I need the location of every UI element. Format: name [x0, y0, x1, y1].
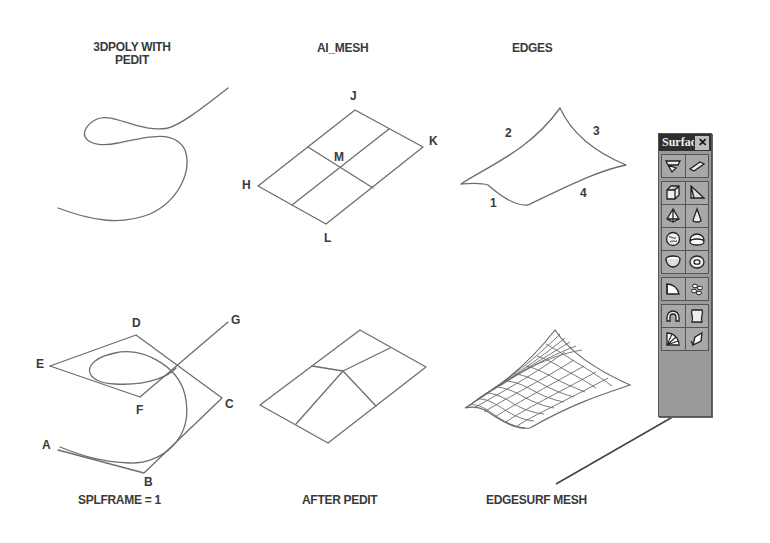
close-icon[interactable]: ✕ — [694, 135, 710, 151]
ruled-surface-button[interactable] — [686, 305, 709, 328]
revolved-surface-button[interactable] — [662, 278, 686, 300]
toolbar-title: Surfac — [662, 135, 696, 149]
edge-label-3: 3 — [593, 124, 600, 138]
edges-outline — [461, 108, 626, 205]
ai-mesh-title: AI_MESH — [317, 41, 368, 55]
toolbar-group-1 — [661, 154, 709, 178]
sphere-button[interactable] — [662, 228, 686, 251]
edgesurf-pointer-line — [556, 407, 690, 484]
point-label-f: F — [136, 403, 143, 417]
3d-mesh-icon — [688, 280, 706, 298]
dome-button[interactable] — [686, 228, 709, 251]
wedge-icon — [688, 184, 706, 202]
splframe-curve — [60, 352, 187, 463]
torus-icon — [688, 253, 706, 271]
revolved-surface-alt-button[interactable] — [662, 305, 686, 328]
3dpoly-title-line2: PEDIT — [72, 54, 192, 67]
splframe-caption: SPLFRAME = 1 — [78, 493, 161, 507]
edge-label-1: 1 — [490, 196, 497, 210]
box-button[interactable] — [662, 182, 686, 205]
cone-icon — [688, 207, 706, 225]
point-label-k: K — [429, 134, 438, 148]
3d-face-button[interactable] — [686, 155, 709, 177]
dome-icon — [688, 230, 706, 248]
3dpoly-curve — [58, 88, 228, 221]
edgesurf-mesh — [465, 330, 630, 428]
tabulated-surface-button[interactable] — [686, 328, 709, 350]
point-label-h: H — [242, 178, 251, 192]
after-pedit-grid — [260, 330, 426, 443]
point-label-e: E — [36, 357, 44, 371]
pyramid-button[interactable] — [662, 205, 686, 228]
2d-solid-button[interactable] — [662, 155, 686, 177]
3dpoly-title: 3DPOLY WITH PEDIT — [72, 41, 192, 67]
point-label-a: A — [42, 438, 51, 452]
2d-solid-icon — [664, 157, 682, 175]
tabulated-surface-icon — [688, 330, 706, 348]
cone-button[interactable] — [686, 205, 709, 228]
surfaces-toolbar[interactable]: Surfac ✕ — [658, 133, 712, 417]
box-icon — [664, 184, 682, 202]
torus-button[interactable] — [686, 251, 709, 273]
edge-surface-button[interactable] — [662, 328, 686, 350]
diagram-canvas — [0, 0, 770, 543]
after-pedit-caption: AFTER PEDIT — [302, 493, 377, 507]
point-label-c: C — [225, 397, 234, 411]
sphere-icon — [664, 230, 682, 248]
point-label-j: J — [350, 89, 357, 103]
edges-title: EDGES — [512, 41, 553, 55]
point-label-d: D — [132, 316, 141, 330]
toolbar-group-3 — [661, 277, 709, 301]
wedge-button[interactable] — [686, 182, 709, 205]
3d-face-icon — [688, 157, 706, 175]
toolbar-group-4 — [661, 304, 709, 351]
toolbar-group-2 — [661, 181, 709, 274]
ruled-surface-icon — [688, 307, 706, 325]
point-label-g: G — [231, 313, 240, 327]
edge-label-4: 4 — [580, 186, 587, 200]
pyramid-icon — [664, 207, 682, 225]
point-label-m: M — [334, 150, 344, 164]
dish-button[interactable] — [662, 251, 686, 273]
revolved-surface-icon — [664, 280, 682, 298]
edgesurf-caption: EDGESURF MESH — [486, 493, 587, 507]
revolved-surface-alt-icon — [664, 307, 682, 325]
dish-icon — [664, 253, 682, 271]
toolbar-title-bar[interactable]: Surfac ✕ — [659, 134, 711, 151]
point-label-b: B — [144, 475, 153, 489]
3d-mesh-button[interactable] — [686, 278, 709, 300]
point-label-l: L — [324, 231, 331, 245]
edge-surface-icon — [664, 330, 682, 348]
splframe-frame — [50, 322, 228, 473]
ai-mesh-grid — [258, 110, 423, 224]
edge-label-2: 2 — [505, 126, 512, 140]
